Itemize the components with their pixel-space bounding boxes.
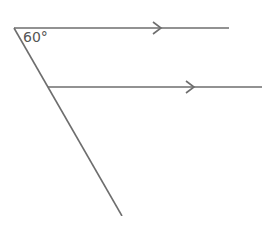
transversal-line: [14, 28, 122, 216]
angle-label: 60°: [23, 30, 48, 44]
